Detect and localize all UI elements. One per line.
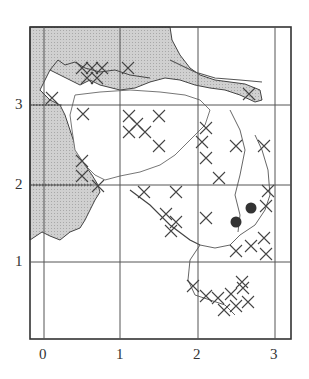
x-tick-1: 1	[116, 346, 124, 363]
distribution-map	[0, 0, 309, 379]
y-tick-3: 3	[15, 96, 23, 113]
x-tick-3: 3	[270, 346, 278, 363]
inner-land-boundary	[70, 90, 210, 180]
boundary-south-2	[188, 245, 235, 315]
y-tick-2: 2	[15, 176, 23, 193]
river-east	[230, 110, 245, 232]
x-tick-0: 0	[39, 346, 47, 363]
y-tick-1: 1	[15, 253, 23, 270]
x-tick-2: 2	[193, 346, 201, 363]
boundary-south	[200, 135, 270, 248]
dot-marker	[231, 217, 242, 228]
dot-marker	[246, 203, 257, 214]
